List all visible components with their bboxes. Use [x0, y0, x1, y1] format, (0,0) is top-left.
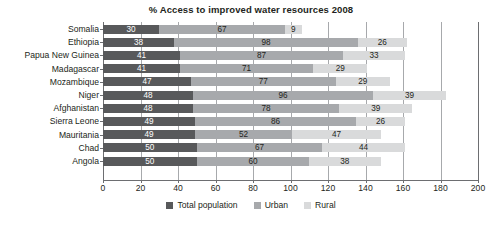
- bar-row: 418733: [103, 51, 478, 60]
- y-axis-label: Niger: [0, 90, 99, 100]
- bar-segment: [103, 38, 174, 47]
- legend-swatch-icon: [254, 202, 261, 209]
- bar-row: 506038: [103, 157, 478, 166]
- bar-segment: [197, 157, 310, 166]
- bar-row: 489639: [103, 91, 478, 100]
- bar-row: 487839: [103, 104, 478, 113]
- bar-segment: [103, 64, 180, 73]
- y-axis-label: Afghanistan: [0, 103, 99, 113]
- bar-segment: [339, 104, 412, 113]
- bar-segment: [103, 143, 197, 152]
- x-axis-tick-label: 100: [276, 183, 306, 193]
- bar-segment: [193, 91, 373, 100]
- y-axis-label: Angola: [0, 156, 99, 166]
- legend-item[interactable]: Urban: [254, 200, 288, 210]
- bar-segment: [103, 91, 193, 100]
- bar-segment: [103, 130, 195, 139]
- bar-segment: [358, 38, 407, 47]
- bar-segment: [103, 77, 191, 86]
- y-axis-label: Mauritania: [0, 130, 99, 140]
- y-axis-label: Madagascar: [0, 64, 99, 74]
- x-axis-tick-label: 0: [88, 183, 118, 193]
- x-axis-tick-label: 200: [463, 183, 493, 193]
- legend-label: Urban: [265, 200, 288, 210]
- bar-segment: [373, 91, 446, 100]
- bar-segment: [356, 117, 405, 126]
- y-axis-label: Somalia: [0, 24, 99, 34]
- y-axis-label: Ethiopia: [0, 37, 99, 47]
- bar-segment: [195, 130, 293, 139]
- bar-segment: [103, 25, 159, 34]
- legend-item[interactable]: Total population: [166, 200, 237, 210]
- bar-row: 498626: [103, 117, 478, 126]
- bar-row: 506744: [103, 143, 478, 152]
- x-axis-tick-label: 60: [201, 183, 231, 193]
- x-axis-tick-label: 20: [126, 183, 156, 193]
- x-axis-tick-label: 40: [163, 183, 193, 193]
- y-axis-label: Papua New Guinea: [0, 50, 99, 60]
- chart-legend: Total populationUrbanRural: [0, 200, 502, 210]
- bar-segment: [313, 64, 367, 73]
- bar-segment: [180, 64, 313, 73]
- bar-row: 30679: [103, 25, 478, 34]
- x-axis-tick-label: 160: [388, 183, 418, 193]
- plot-area: 3067938982641873341712947772948963948783…: [103, 22, 478, 180]
- bar-segment: [193, 104, 339, 113]
- bar-segment: [322, 143, 405, 152]
- x-axis-tick-label: 80: [238, 183, 268, 193]
- x-axis-tick-label: 140: [351, 183, 381, 193]
- bar-segment: [195, 117, 356, 126]
- legend-swatch-icon: [166, 202, 173, 209]
- x-axis-tick-label: 180: [426, 183, 456, 193]
- chart-container: % Access to improved water resources 200…: [0, 0, 502, 233]
- legend-label: Total population: [177, 200, 237, 210]
- bar-segment: [180, 51, 343, 60]
- legend-item[interactable]: Rural: [304, 200, 336, 210]
- bar-row: 389826: [103, 38, 478, 47]
- bar-row: 495247: [103, 130, 478, 139]
- bar-segment: [309, 157, 380, 166]
- gridline: [478, 22, 479, 180]
- legend-swatch-icon: [304, 202, 311, 209]
- bar-segment: [197, 143, 323, 152]
- bar-segment: [103, 104, 193, 113]
- y-axis-label: Chad: [0, 143, 99, 153]
- bar-segment: [103, 51, 180, 60]
- bar-segment: [103, 117, 195, 126]
- bar-segment: [336, 77, 390, 86]
- bar-segment: [174, 38, 358, 47]
- y-axis-label: Mozambique: [0, 77, 99, 87]
- chart-title: % Access to improved water resources 200…: [0, 4, 502, 15]
- bar-segment: [191, 77, 335, 86]
- bar-segment: [285, 25, 302, 34]
- bar-segment: [292, 130, 380, 139]
- bar-row: 417129: [103, 64, 478, 73]
- legend-label: Rural: [315, 200, 336, 210]
- bar-row: 477729: [103, 77, 478, 86]
- y-axis-label: Sierra Leone: [0, 116, 99, 126]
- bar-segment: [343, 51, 405, 60]
- x-axis-tick-label: 120: [313, 183, 343, 193]
- bar-segment: [159, 25, 285, 34]
- bar-segment: [103, 157, 197, 166]
